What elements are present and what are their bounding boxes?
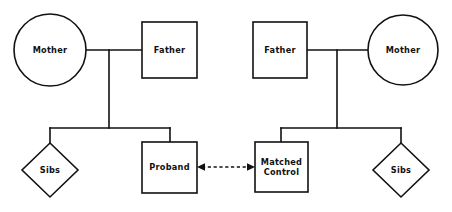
person-matched-control[interactable]: Matched Control [255,142,308,192]
person-label-left-mother: Mother [33,45,68,55]
person-left-mother[interactable]: Mother [14,14,86,86]
pedigree-canvas: Mother Father Sibs Proband [0,0,452,212]
arrow-head-right-icon [247,163,255,171]
person-right-mother[interactable]: Mother [368,15,438,85]
person-label-matched-control-line2: Control [264,167,300,177]
proband-control-comparison-link[interactable] [197,163,255,171]
family-proband: Mother Father Sibs Proband [14,14,197,197]
person-label-right-mother: Mother [386,45,421,55]
family-matched-control: Father Mother Matched Control Sibs [253,15,438,197]
person-right-father[interactable]: Father [253,22,307,78]
person-label-left-father: Father [154,45,186,55]
person-right-sibs[interactable]: Sibs [373,143,429,197]
arrow-head-left-icon [197,163,205,171]
person-proband[interactable]: Proband [142,142,197,193]
person-left-sibs[interactable]: Sibs [22,143,78,197]
person-label-matched-control-line1: Matched [261,157,302,167]
person-label-proband: Proband [149,162,190,172]
person-label-right-father: Father [264,45,296,55]
person-left-father[interactable]: Father [142,22,197,78]
person-label-left-sibs: Sibs [40,165,60,175]
person-label-right-sibs: Sibs [391,165,411,175]
pedigree-diagram: Mother Father Sibs Proband [0,0,452,212]
